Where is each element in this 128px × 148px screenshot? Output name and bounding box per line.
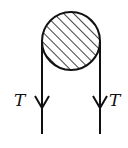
hatch-fill (40, 10, 102, 72)
pulley-diagram: T T (0, 0, 128, 148)
right-tension-label: T (109, 90, 122, 110)
left-tension-label: T (14, 90, 27, 110)
pulley-disc (40, 10, 102, 72)
